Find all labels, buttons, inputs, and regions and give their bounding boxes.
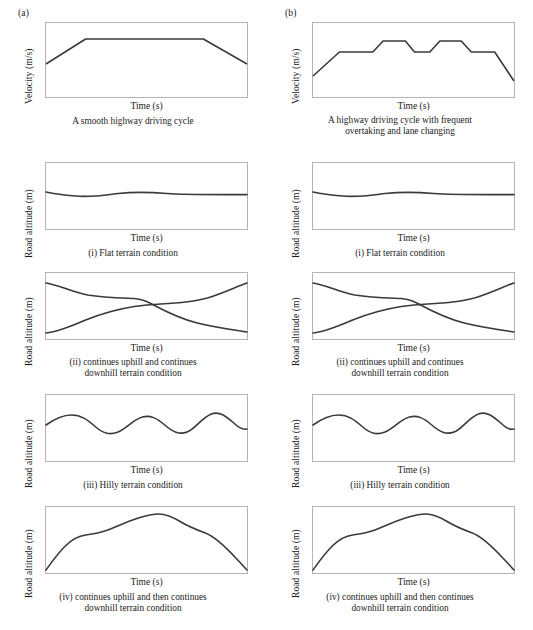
- plot-area: [312, 506, 515, 574]
- x-axis-label: Time (s): [312, 101, 515, 111]
- panel-label-b: (b): [285, 8, 297, 18]
- caption-line-1: (iii) Hilly terrain condition: [83, 480, 182, 490]
- panel-a-driving-cycle: (a) Velocity (m/s) Time (s) A smooth hig…: [0, 8, 266, 140]
- x-axis-label: Time (s): [45, 101, 248, 111]
- plot-area: [45, 506, 248, 574]
- plot-area: [45, 394, 248, 462]
- panel-b-driving-cycle: (b) Velocity (m/s) Time (s) A highway dr…: [267, 8, 533, 140]
- panel-caption: A smooth highway driving cycle: [4, 116, 262, 127]
- velocity-curve-overtaking: [312, 22, 515, 98]
- caption-line-1: (iv) continues uphill and then continues: [326, 592, 473, 602]
- caption-line-1: (i) Flat terrain condition: [88, 248, 178, 258]
- uphill-curve: [313, 283, 514, 333]
- x-axis-label: Time (s): [45, 577, 248, 587]
- caption-line-2: downhill terrain condition: [271, 368, 529, 379]
- panel-caption: (iv) continues uphill and then continues…: [4, 592, 262, 615]
- panel-caption: (iv) continues uphill and then continues…: [271, 592, 529, 615]
- altitude-curve-hilly: [45, 394, 248, 462]
- panel-b-uphill-then-downhill-terrain: Road altitude (m) Time (s) (iv) continue…: [267, 506, 533, 624]
- panel-a-uphill-then-downhill-terrain: Road altitude (m) Time (s) (iv) continue…: [0, 506, 266, 624]
- caption-line-1: (ii) continues uphill and continues: [336, 357, 463, 367]
- caption-line-2: downhill terrain condition: [4, 368, 262, 379]
- plot-area: [45, 272, 248, 340]
- x-axis-label: Time (s): [312, 343, 515, 353]
- altitude-curve-mountain: [312, 506, 515, 574]
- panel-a-flat-terrain: Road altitude (m) Time (s) (i) Flat terr…: [0, 160, 266, 268]
- figure-column-a: (a) Velocity (m/s) Time (s) A smooth hig…: [0, 0, 266, 630]
- caption-line-2: downhill terrain condition: [271, 603, 529, 614]
- altitude-curve-hilly: [312, 394, 515, 462]
- plot-area: [312, 394, 515, 462]
- plot-area: [45, 162, 248, 230]
- panel-b-flat-terrain: Road altitude (m) Time (s) (i) Flat terr…: [267, 160, 533, 268]
- plot-area: [45, 22, 248, 98]
- x-axis-label: Time (s): [312, 465, 515, 475]
- panel-caption: (i) Flat terrain condition: [4, 248, 262, 259]
- caption-line-1: (ii) continues uphill and continues: [69, 357, 196, 367]
- velocity-curve-smooth: [45, 22, 248, 98]
- uphill-curve: [46, 283, 247, 333]
- caption-line-1: (i) Flat terrain condition: [355, 248, 445, 258]
- panel-label-a: (a): [18, 8, 29, 18]
- figure-driving-cycles-and-terrain-conditions: (a) Velocity (m/s) Time (s) A smooth hig…: [0, 0, 533, 630]
- plot-area: [312, 162, 515, 230]
- caption-line-1: A smooth highway driving cycle: [72, 116, 193, 126]
- x-axis-label: Time (s): [45, 233, 248, 243]
- x-axis-label: Time (s): [45, 343, 248, 353]
- panel-caption: (ii) continues uphill and continues down…: [271, 357, 529, 380]
- panel-a-hilly-terrain: Road altitude (m) Time (s) (iii) Hilly t…: [0, 394, 266, 502]
- plot-area: [312, 22, 515, 98]
- caption-line-1: (iii) Hilly terrain condition: [350, 480, 449, 490]
- panel-caption: (iii) Hilly terrain condition: [271, 480, 529, 491]
- caption-line-2: overtaking and lane changing: [271, 126, 529, 137]
- altitude-curve-flat: [45, 162, 248, 230]
- panel-caption: (iii) Hilly terrain condition: [4, 480, 262, 491]
- panel-a-uphill-downhill-terrain: Road altitude (m) Time (s) (ii) continue…: [0, 272, 266, 390]
- altitude-curves-crossing: [45, 272, 248, 340]
- caption-line-1: A highway driving cycle with frequent: [328, 115, 472, 125]
- x-axis-label: Time (s): [312, 233, 515, 243]
- caption-line-1: (iv) continues uphill and then continues: [59, 592, 206, 602]
- plot-area: [312, 272, 515, 340]
- altitude-curves-crossing: [312, 272, 515, 340]
- panel-caption: (ii) continues uphill and continues down…: [4, 357, 262, 380]
- altitude-curve-mountain: [45, 506, 248, 574]
- panel-caption: (i) Flat terrain condition: [271, 248, 529, 259]
- panel-b-uphill-downhill-terrain: Road altitude (m) Time (s) (ii) continue…: [267, 272, 533, 390]
- panel-caption: A highway driving cycle with frequent ov…: [271, 115, 529, 138]
- x-axis-label: Time (s): [312, 577, 515, 587]
- panel-b-hilly-terrain: Road altitude (m) Time (s) (iii) Hilly t…: [267, 394, 533, 502]
- x-axis-label: Time (s): [45, 465, 248, 475]
- caption-line-2: downhill terrain condition: [4, 603, 262, 614]
- figure-column-b: (b) Velocity (m/s) Time (s) A highway dr…: [267, 0, 533, 630]
- altitude-curve-flat: [312, 162, 515, 230]
